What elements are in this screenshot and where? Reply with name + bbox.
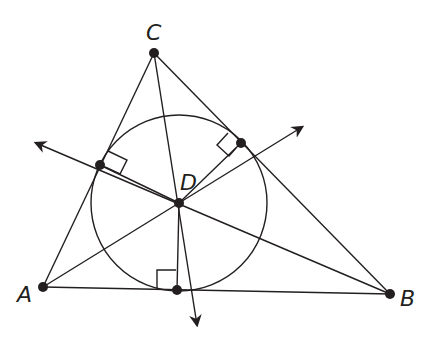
perpendicular-to-ab — [177, 203, 179, 290]
right-angle-mark-cb — [217, 133, 236, 156]
point-c — [149, 48, 159, 58]
tangent-point-ca — [95, 160, 105, 170]
tangent-point-cb — [236, 138, 246, 148]
right-angle-mark-ca — [105, 151, 127, 174]
tangent-point-ab — [172, 285, 182, 295]
side-ab — [43, 287, 390, 294]
right-angle-mark-ab — [157, 270, 176, 289]
point-d — [174, 198, 184, 208]
point-a — [38, 282, 48, 292]
bisector-ray-a — [43, 127, 302, 287]
label-a: A — [15, 282, 32, 307]
label-c: C — [146, 20, 162, 45]
label-b: B — [400, 286, 415, 311]
bisector-ray-b — [36, 143, 390, 294]
point-b — [385, 289, 395, 299]
geometry-diagram: C A B D — [0, 0, 432, 340]
label-d: D — [180, 170, 197, 195]
